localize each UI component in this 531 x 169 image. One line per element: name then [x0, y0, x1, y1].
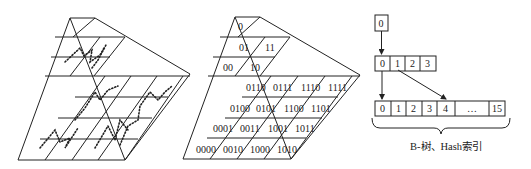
cell-label: 0 — [238, 21, 243, 32]
cell-label: 1110 — [301, 82, 320, 93]
cell-label: 01 — [239, 42, 249, 53]
node-cell: 4 — [443, 103, 448, 114]
node-cell: 3 — [425, 58, 430, 69]
node-cell: 15 — [492, 103, 502, 114]
root-node: 0 — [379, 18, 384, 29]
pyramid-1 — [18, 18, 190, 160]
node-cell: 1 — [395, 58, 400, 69]
node-cell: 0 — [380, 103, 385, 114]
cell-label: 1011 — [295, 123, 315, 134]
node-cell: … — [467, 103, 477, 114]
node-cell: 1 — [396, 103, 401, 114]
cell-label: 0001 — [213, 123, 233, 134]
cell-label: 1000 — [250, 144, 270, 155]
brace-icon — [372, 118, 510, 134]
cell-label: 0100 — [230, 103, 250, 114]
cell-label: 1010 — [277, 144, 297, 155]
cell-label: 0101 — [256, 103, 276, 114]
cell-label: 1101 — [311, 103, 331, 114]
diagram-canvas: 0 00 01 10 11 0110 0111 1110 1111 0100 0… — [0, 0, 531, 169]
cell-label: 1100 — [284, 103, 304, 114]
cell-label: 0000 — [196, 144, 216, 155]
index-tree: 0 0 1 2 3 0 1 2 3 4 … 15 B-树、Hash索引 — [372, 15, 510, 152]
node-cell: 2 — [410, 58, 415, 69]
cell-label: 0110 — [246, 82, 266, 93]
node-cell: 2 — [411, 103, 416, 114]
pyramid-2: 0 00 01 10 11 0110 0111 1110 1111 0100 0… — [183, 17, 360, 159]
node-cell: 3 — [427, 103, 432, 114]
cell-label: 0011 — [240, 123, 260, 134]
cell-label: 1111 — [328, 82, 347, 93]
cell-label: 0010 — [223, 144, 243, 155]
cell-label: 1001 — [268, 123, 288, 134]
cell-label: 11 — [265, 42, 275, 53]
cell-label: 00 — [223, 62, 233, 73]
cell-label: 0111 — [273, 82, 292, 93]
caption: B-树、Hash索引 — [410, 140, 482, 152]
cell-label: 10 — [250, 62, 260, 73]
node-cell: 0 — [380, 58, 385, 69]
